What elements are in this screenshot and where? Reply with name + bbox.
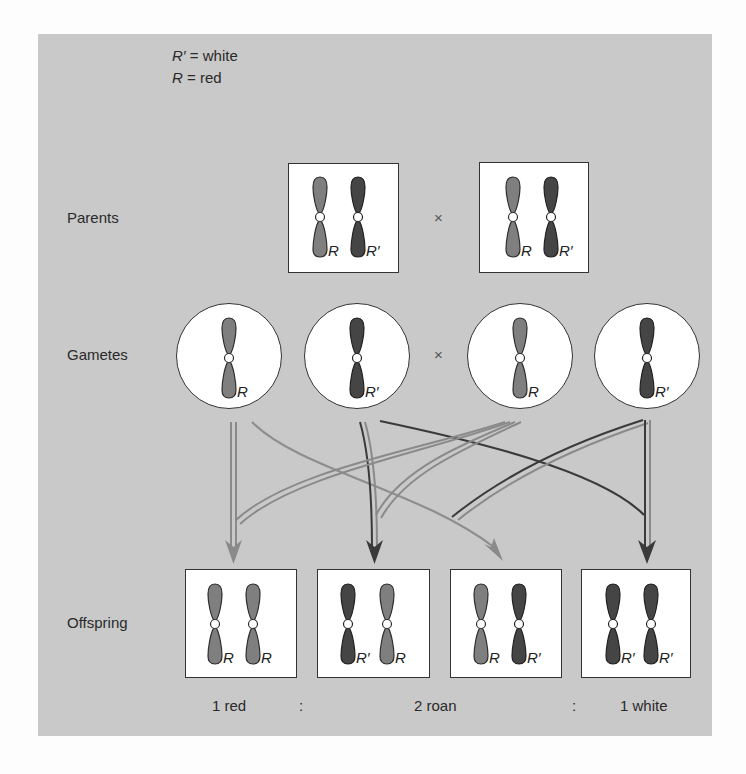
allele-label: R: [261, 649, 272, 666]
allele-label: R: [489, 649, 500, 666]
allele-label: R′: [655, 383, 670, 400]
allele-label: R: [223, 649, 234, 666]
chromosome-white-icon: [341, 584, 355, 664]
ratio-red: 1 red: [212, 697, 246, 714]
chromosome-white-icon: [544, 177, 558, 257]
chromosomes-layer: R R′ R R′ R R′ R R′ R R R′ R R R′ R′ R′: [0, 0, 746, 774]
chromosome-red-icon: [208, 584, 222, 664]
chromosome-white-icon: [350, 318, 364, 398]
ratio-roan: 2 roan: [414, 697, 457, 714]
chromosome-red-icon: [513, 318, 527, 398]
chromosome-red-icon: [506, 177, 520, 257]
allele-label: R: [395, 649, 406, 666]
allele-label: R′: [527, 649, 542, 666]
allele-label: R: [528, 383, 539, 400]
allele-label: R: [521, 242, 532, 259]
chromosome-red-icon: [313, 177, 327, 257]
ratio-separator-2: :: [572, 697, 576, 714]
chromosome-red-icon: [222, 318, 236, 398]
chromosome-white-icon: [351, 177, 365, 257]
allele-label: R: [237, 383, 248, 400]
chromosome-white-icon: [512, 584, 526, 664]
chromosome-red-icon: [380, 584, 394, 664]
allele-label: R′: [659, 649, 674, 666]
allele-label: R′: [356, 649, 371, 666]
allele-label: R′: [365, 383, 380, 400]
allele-label: R: [328, 242, 339, 259]
chromosome-white-icon: [644, 584, 658, 664]
chromosome-white-icon: [606, 584, 620, 664]
chromosome-red-icon: [246, 584, 260, 664]
allele-label: R′: [621, 649, 636, 666]
allele-label: R′: [366, 242, 381, 259]
allele-label: R′: [559, 242, 574, 259]
ratio-white: 1 white: [620, 697, 668, 714]
chromosome-white-icon: [640, 318, 654, 398]
ratio-separator-1: :: [299, 697, 303, 714]
chromosome-red-icon: [474, 584, 488, 664]
